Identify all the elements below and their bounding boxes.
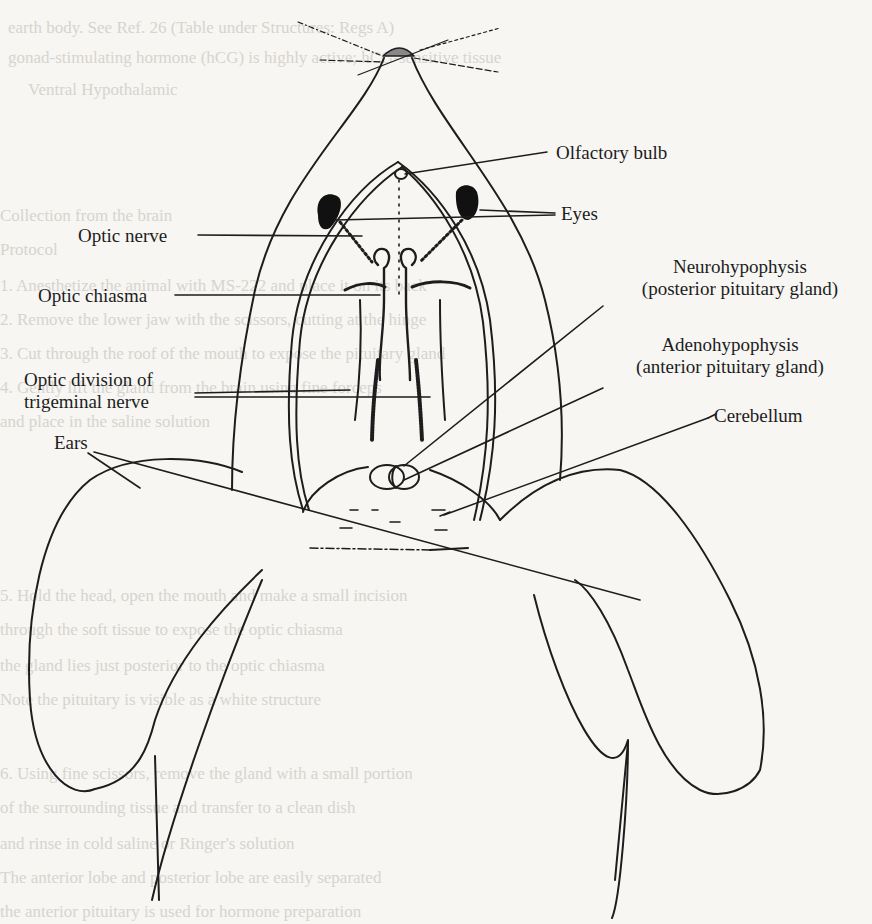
skull-base-dashed xyxy=(310,548,430,550)
label-cerebellum: Cerebellum xyxy=(714,405,803,427)
ear-left xyxy=(29,459,262,791)
label-eyes: Eyes xyxy=(561,203,598,225)
brain-structures xyxy=(345,249,470,440)
label-optic-chiasma: Optic chiasma xyxy=(38,285,147,307)
label-ears: Ears xyxy=(54,432,88,454)
label-neurohypophysis: Neurohypophysis (posterior pituitary gla… xyxy=(610,256,870,300)
cerebellum-mound xyxy=(303,467,500,520)
label-neurohypophysis-line2: (posterior pituitary gland) xyxy=(610,278,870,300)
right-eye xyxy=(456,185,479,220)
label-neurohypophysis-line1: Neurohypophysis xyxy=(610,256,870,278)
snout-tip xyxy=(298,22,500,75)
label-optic-division: Optic division of trigeminal nerve xyxy=(24,369,153,413)
left-eye xyxy=(317,194,341,229)
optic-nerve-left xyxy=(340,222,372,262)
anatomy-diagram xyxy=(0,0,872,924)
label-optic-nerve: Optic nerve xyxy=(78,225,167,247)
label-optic-division-line1: Optic division of xyxy=(24,369,153,391)
label-adenohypophysis: Adenohypophysis (anterior pituitary glan… xyxy=(605,334,855,378)
label-adenohypophysis-line1: Adenohypophysis xyxy=(605,334,855,356)
label-optic-division-line2: trigeminal nerve xyxy=(24,391,153,413)
neck-right xyxy=(534,595,628,918)
ear-right xyxy=(500,469,764,794)
label-olfactory-bulb: Olfactory bulb xyxy=(556,142,667,164)
label-adenohypophysis-line2: (anterior pituitary gland) xyxy=(605,356,855,378)
optic-nerve-right xyxy=(420,220,462,262)
